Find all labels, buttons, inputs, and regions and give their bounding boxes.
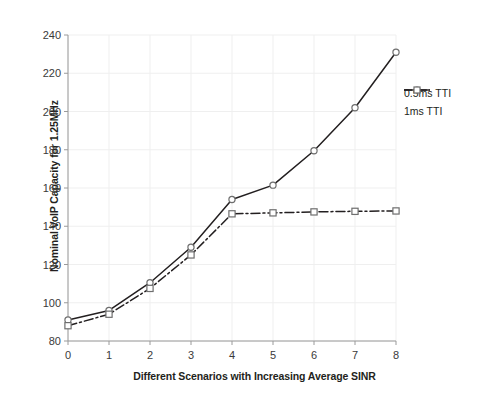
data-point-marker (311, 148, 317, 154)
data-point-marker (106, 311, 112, 317)
data-point-marker (393, 208, 399, 214)
chart-legend: 0.5ms TTI1ms TTI (404, 84, 451, 120)
data-point-marker (352, 105, 358, 111)
data-point-marker (311, 209, 317, 215)
plot-area (0, 0, 489, 398)
data-point-marker (229, 196, 235, 202)
legend-marker (414, 87, 420, 93)
data-point-marker (270, 210, 276, 216)
data-point-marker (188, 252, 194, 258)
legend-item[interactable]: 1ms TTI (404, 102, 451, 120)
legend-label: 1ms TTI (404, 105, 442, 117)
data-point-marker (65, 323, 71, 329)
data-point-marker (229, 211, 235, 217)
axes (64, 35, 396, 345)
legend-swatch (404, 84, 430, 96)
data-point-marker (352, 208, 358, 214)
gridlines (68, 35, 396, 341)
data-point-marker (147, 285, 153, 291)
data-point-marker (393, 49, 399, 55)
data-point-marker (270, 182, 276, 188)
chart-container: Nominal VoIP Capacity for 1.25MHz Differ… (0, 0, 489, 398)
data-point-marker (188, 244, 194, 250)
